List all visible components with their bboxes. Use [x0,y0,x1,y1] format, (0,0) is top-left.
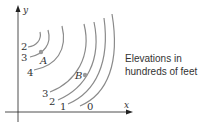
caption-line-2: hundreds of feet [125,65,197,78]
y-axis-arrow-icon [16,5,21,12]
lower-contours [50,14,114,106]
point-b-label: B [74,70,82,81]
x-axis-arrow-icon [126,110,133,115]
caption-line-1: Elevations in [125,52,197,65]
contour-label: 2 [49,96,55,107]
contour-label: 1 [60,101,66,112]
contour-label: 3 [42,88,48,99]
y-axis-label: y [22,5,29,15]
contour-label: 3 [21,52,27,63]
contour-label: 4 [27,67,33,78]
contour-label: 2 [21,41,27,52]
point-a-label: A [39,55,47,66]
point-b [83,73,87,77]
point-a [39,50,43,54]
contour-label: 0 [87,101,93,112]
caption: Elevations in hundreds of feet [125,52,197,78]
x-axis-label: x [124,100,129,110]
